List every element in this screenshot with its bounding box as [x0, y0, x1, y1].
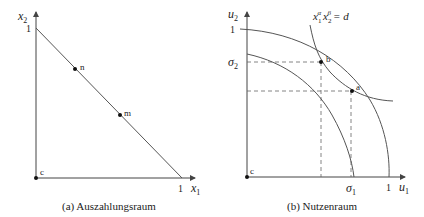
origin-label: c [250, 166, 254, 176]
x-axis-label: x1 [190, 181, 200, 197]
point-m-label: m [124, 108, 131, 118]
figure: x2 1 1 x1 c n m (a) Auszahlungsraum u2 1… [0, 0, 424, 217]
inner-utility-frontier [247, 54, 354, 177]
x-tick-1: 1 [386, 182, 391, 193]
payoff-frontier-line [36, 28, 182, 178]
point-n-label: n [80, 62, 85, 72]
y-tick-1: 1 [230, 24, 235, 35]
x-axis-label: u1 [399, 180, 409, 196]
panel-b-nutzenraum: u2 1 σ2 σ1 1 u1 c b a x1αx2β= d (b) Nutz… [228, 7, 409, 213]
y-tick-1: 1 [26, 23, 31, 34]
x-tick-sigma1: σ1 [346, 181, 356, 197]
x-tick-1: 1 [178, 183, 183, 194]
point-n [73, 67, 77, 71]
outer-utility-frontier [240, 29, 389, 177]
origin-point [245, 175, 249, 179]
point-b [319, 60, 323, 64]
point-a-label: a [356, 82, 360, 92]
caption-b: (b) Nutzenraum [287, 200, 357, 213]
panel-a-auszahlungsraum: x2 1 1 x1 c n m (a) Auszahlungsraum [17, 9, 200, 213]
y-axis-label: u2 [228, 7, 238, 23]
origin-label: c [40, 167, 44, 177]
point-a [350, 89, 354, 93]
caption-a: (a) Auszahlungsraum [62, 200, 156, 213]
point-b-label: b [326, 54, 331, 64]
curve-label: x1αx2β= d [312, 9, 349, 25]
y-tick-sigma2: σ2 [228, 55, 238, 71]
origin-point [34, 176, 38, 180]
point-m [118, 113, 122, 117]
